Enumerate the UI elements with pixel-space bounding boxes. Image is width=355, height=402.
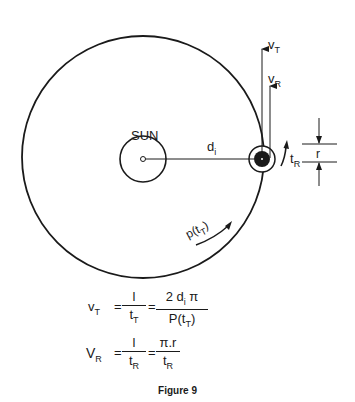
r-label: r <box>316 148 320 160</box>
vr-label: vR <box>268 72 281 89</box>
tr-label: tR <box>290 152 300 169</box>
figure-caption: Figure 9 <box>0 385 355 396</box>
sun-label: SUN <box>131 129 158 142</box>
rotation-arrow <box>281 147 286 166</box>
distance-label: di <box>207 140 216 157</box>
sun-center-dot <box>141 157 146 162</box>
planet-center-dot <box>261 158 263 160</box>
vt-label: vT <box>268 38 280 55</box>
